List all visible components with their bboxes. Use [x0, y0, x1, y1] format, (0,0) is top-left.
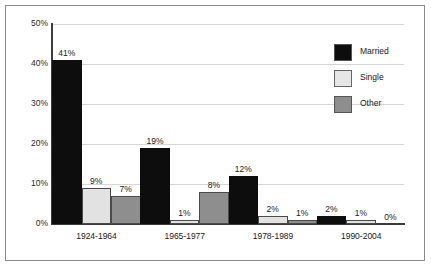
bar-value-label: 12%: [225, 164, 263, 174]
bar-value-label: 41%: [48, 48, 86, 58]
bar-value-label: 1%: [166, 208, 204, 218]
chart-legend: MarriedSingleOther: [334, 42, 420, 120]
bar: [170, 220, 200, 224]
bar-value-label: 0%: [372, 212, 410, 222]
x-axis-tick-label: 1990-2004: [311, 231, 412, 242]
bar: [229, 176, 259, 224]
bar-value-label: 8%: [195, 180, 233, 190]
legend-swatch-married: [334, 44, 352, 61]
legend-swatch-other: [334, 96, 352, 113]
bar: [52, 60, 82, 224]
legend-label: Married: [360, 46, 389, 57]
legend-swatch-single: [334, 70, 352, 87]
legend-item: Other: [334, 94, 420, 120]
y-axis-tick-label: 20%: [14, 139, 48, 148]
x-axis-tick-label: 1978-1989: [223, 231, 324, 242]
y-axis-tick-label: 30%: [14, 99, 48, 108]
y-axis-tick-label: 50%: [14, 19, 48, 28]
y-axis-tick-label: 10%: [14, 179, 48, 188]
gridline: [51, 24, 404, 25]
gridline: [51, 144, 404, 145]
bar: [288, 220, 318, 224]
bar-value-label: 19%: [136, 136, 174, 146]
legend-label: Single: [360, 72, 384, 83]
bar: [199, 192, 229, 224]
legend-item: Single: [334, 68, 420, 94]
x-axis-tick-label: 1924-1964: [46, 231, 147, 242]
legend-label: Other: [360, 98, 381, 109]
y-axis-tick-labels: 0%10%20%30%40%50%: [8, 0, 48, 267]
bar-value-label: 7%: [107, 184, 145, 194]
legend-item: Married: [334, 42, 420, 68]
y-axis-tick-label: 40%: [14, 59, 48, 68]
y-axis-tick-label: 0%: [14, 219, 48, 228]
bar: [111, 196, 141, 224]
chart-figure: 0%10%20%30%40%50% 41%9%7%19%1%8%12%2%1%2…: [0, 0, 431, 267]
x-axis-tick-label: 1965-1977: [134, 231, 235, 242]
